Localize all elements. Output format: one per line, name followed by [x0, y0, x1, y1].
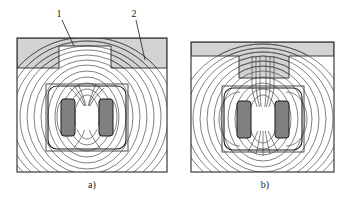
coil-left-b — [237, 101, 251, 138]
central-air-gap-a — [76, 106, 98, 130]
coil-right-b — [275, 101, 289, 138]
callout-1-label: 1 — [57, 8, 62, 19]
central-air-gap-b — [250, 107, 276, 131]
technical-diagram: a) — [0, 0, 354, 201]
coil-left-a — [61, 99, 75, 136]
panel-b-caption: b) — [261, 179, 269, 191]
coil-right-a — [99, 99, 113, 136]
figure-root: a) — [0, 0, 354, 201]
callout-2-label: 2 — [132, 8, 137, 19]
panel-a-caption: a) — [88, 179, 96, 191]
panel-b: b) — [179, 42, 347, 194]
